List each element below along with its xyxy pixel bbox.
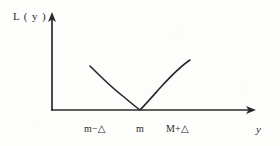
x-tick-label-capital-m-plus-delta: M+△ [166, 124, 189, 134]
x-tick-label-m: m [136, 124, 144, 134]
y-axis-label: L ( y ) [13, 11, 47, 22]
figure-canvas: L ( y ) y m−△ m M+△ [0, 0, 280, 146]
loss-curve [90, 60, 190, 110]
x-axis-label: y [256, 124, 261, 135]
x-tick-label-m-minus-delta: m−△ [84, 124, 106, 134]
